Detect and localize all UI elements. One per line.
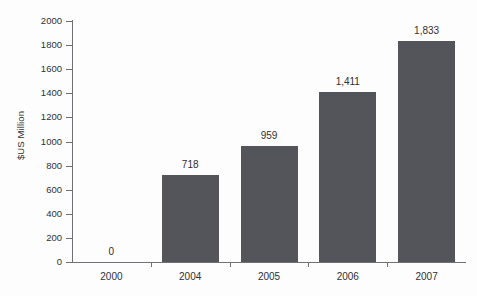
- x-axis-line: [72, 262, 466, 263]
- x-axis-tick: [230, 262, 231, 267]
- y-axis-tick-label: 0: [16, 257, 62, 267]
- y-axis-tick-label: 1200: [16, 112, 62, 122]
- x-axis-tick: [387, 262, 388, 267]
- y-axis-tick-label: 1600: [16, 64, 62, 74]
- y-axis-tick-label: 800: [16, 161, 62, 171]
- y-axis-tick-label: 400: [16, 209, 62, 219]
- x-axis-category-label: 2000: [71, 272, 151, 282]
- y-axis-tick-label: 1800: [16, 40, 62, 50]
- bar: [398, 41, 455, 262]
- bar-value-label: 959: [229, 131, 309, 141]
- x-axis-tick: [151, 262, 152, 267]
- bar-value-label: 1,833: [387, 26, 467, 36]
- x-axis-category-label: 2004: [150, 272, 230, 282]
- y-axis-tick-label: 1000: [16, 137, 62, 147]
- bar-chart: $US Million 0200400600800100012001400160…: [0, 0, 477, 296]
- y-axis-tick-label: 600: [16, 185, 62, 195]
- bar: [319, 92, 376, 262]
- x-axis-category-label: 2007: [387, 272, 467, 282]
- x-axis-tick: [308, 262, 309, 267]
- y-axis-tick-labels: 0200400600800100012001400160018002000: [12, 0, 62, 296]
- bar-value-label: 0: [71, 247, 151, 257]
- x-axis-category-label: 2005: [229, 272, 309, 282]
- x-axis-category-label: 2006: [308, 272, 388, 282]
- y-axis-tick-label: 2000: [16, 16, 62, 26]
- y-axis-tick-label: 200: [16, 233, 62, 243]
- bar-value-label: 718: [150, 160, 230, 170]
- bar-value-label: 1,411: [308, 77, 388, 87]
- y-axis-line: [72, 20, 73, 263]
- bar: [241, 146, 298, 262]
- y-axis-tick-label: 1400: [16, 88, 62, 98]
- bar: [162, 175, 219, 262]
